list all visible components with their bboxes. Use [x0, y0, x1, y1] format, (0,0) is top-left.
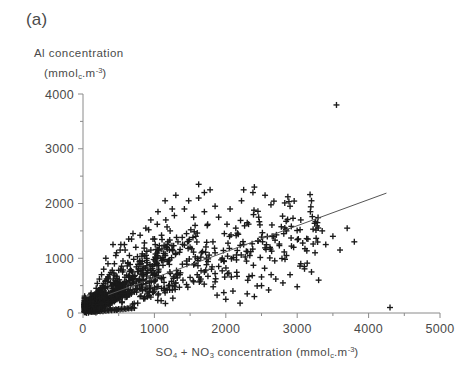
data-points-layer — [81, 102, 393, 316]
data-point-marker — [310, 226, 316, 232]
data-point-marker — [163, 217, 169, 223]
data-point-marker — [110, 242, 116, 248]
data-point-marker — [212, 203, 218, 209]
data-point-marker — [256, 219, 262, 225]
data-point-marker — [279, 255, 285, 261]
data-point-marker — [267, 255, 273, 261]
data-point-marker — [216, 214, 222, 220]
data-point-marker — [212, 245, 218, 251]
data-point-marker — [170, 295, 176, 301]
data-point-marker — [297, 227, 303, 233]
x-tick-label: 3000 — [283, 322, 312, 336]
data-point-marker — [216, 263, 222, 269]
data-point-marker — [295, 236, 301, 242]
data-point-marker — [186, 198, 192, 204]
data-point-marker — [126, 236, 132, 242]
data-point-marker — [298, 217, 304, 223]
data-point-marker — [304, 260, 310, 266]
data-point-marker — [312, 250, 318, 256]
figure-panel-a: (a) Al concentration (mmolc.m-3) 0100020… — [0, 0, 472, 375]
data-point-marker — [196, 181, 202, 187]
data-point-marker — [280, 280, 286, 286]
data-point-marker — [254, 283, 260, 289]
x-label-mid: concentration (mmol — [214, 346, 330, 358]
data-point-marker — [285, 194, 291, 200]
data-point-marker — [344, 225, 350, 231]
x-tick-label: 1000 — [140, 322, 169, 336]
data-point-marker — [219, 268, 225, 274]
data-point-marker — [205, 273, 211, 279]
data-point-marker — [173, 192, 179, 198]
data-point-marker — [246, 274, 252, 280]
data-point-marker — [251, 184, 257, 190]
data-point-marker — [268, 202, 274, 208]
data-point-marker — [148, 217, 154, 223]
y-tick-label: 3000 — [45, 142, 74, 156]
data-point-marker — [282, 200, 288, 206]
data-point-marker — [286, 199, 292, 205]
data-point-marker — [192, 222, 198, 228]
data-point-marker — [308, 204, 314, 210]
data-point-marker — [207, 187, 213, 193]
x-tick-label: 2000 — [211, 322, 240, 336]
data-point-marker — [130, 231, 136, 237]
data-point-marker — [244, 258, 250, 264]
data-point-marker — [105, 261, 111, 267]
data-point-marker — [245, 277, 251, 283]
data-point-marker — [179, 261, 185, 267]
data-point-marker — [196, 195, 202, 201]
data-point-marker — [250, 190, 256, 196]
x-axis-label: SO4 + NO3 concentration (mmolc.m-3) — [0, 345, 472, 360]
data-point-marker — [225, 240, 231, 246]
data-point-marker — [227, 206, 233, 212]
data-point-marker — [234, 273, 240, 279]
data-point-marker — [266, 287, 272, 293]
data-point-marker — [190, 278, 196, 284]
data-point-marker — [169, 206, 175, 212]
x-label-content: SO4 + NO3 concentration (mmolc.m-3) — [113, 345, 358, 360]
data-point-marker — [210, 239, 216, 245]
x-tick-label: 5000 — [425, 322, 454, 336]
data-point-marker — [259, 230, 265, 236]
data-point-marker — [201, 209, 207, 215]
data-point-marker — [237, 300, 243, 306]
data-point-marker — [171, 213, 177, 219]
data-point-marker — [300, 240, 306, 246]
data-point-marker — [141, 240, 147, 246]
data-point-marker — [387, 305, 393, 311]
data-point-marker — [103, 255, 109, 261]
data-point-marker — [323, 242, 329, 248]
data-point-marker — [288, 235, 294, 241]
data-point-marker — [159, 236, 165, 242]
data-point-marker — [224, 221, 230, 227]
data-point-marker — [316, 277, 322, 283]
data-point-marker — [133, 244, 139, 250]
data-point-marker — [269, 222, 275, 228]
data-point-marker — [154, 221, 160, 227]
data-point-marker — [259, 274, 265, 280]
data-point-marker — [198, 268, 204, 274]
data-point-marker — [294, 284, 300, 290]
data-point-marker — [187, 274, 193, 280]
data-point-marker — [249, 273, 255, 279]
data-point-marker — [287, 203, 293, 209]
data-point-marker — [304, 236, 310, 242]
data-point-marker — [155, 209, 161, 215]
x-tick-label: 4000 — [354, 322, 383, 336]
x-label-so: SO — [155, 346, 173, 358]
data-point-marker — [101, 266, 107, 272]
x-tick-label: 0 — [79, 322, 86, 336]
data-point-marker — [221, 290, 227, 296]
data-point-marker — [271, 198, 277, 204]
data-point-marker — [351, 239, 357, 245]
data-point-marker — [221, 231, 227, 237]
data-point-marker — [307, 192, 313, 198]
data-point-marker — [164, 224, 170, 230]
y-tick-label: 1000 — [45, 252, 74, 266]
data-point-marker — [262, 265, 268, 271]
data-point-marker — [203, 249, 209, 255]
data-point-marker — [272, 237, 278, 243]
data-point-marker — [308, 198, 314, 204]
data-point-marker — [308, 269, 314, 275]
data-point-marker — [257, 254, 263, 260]
